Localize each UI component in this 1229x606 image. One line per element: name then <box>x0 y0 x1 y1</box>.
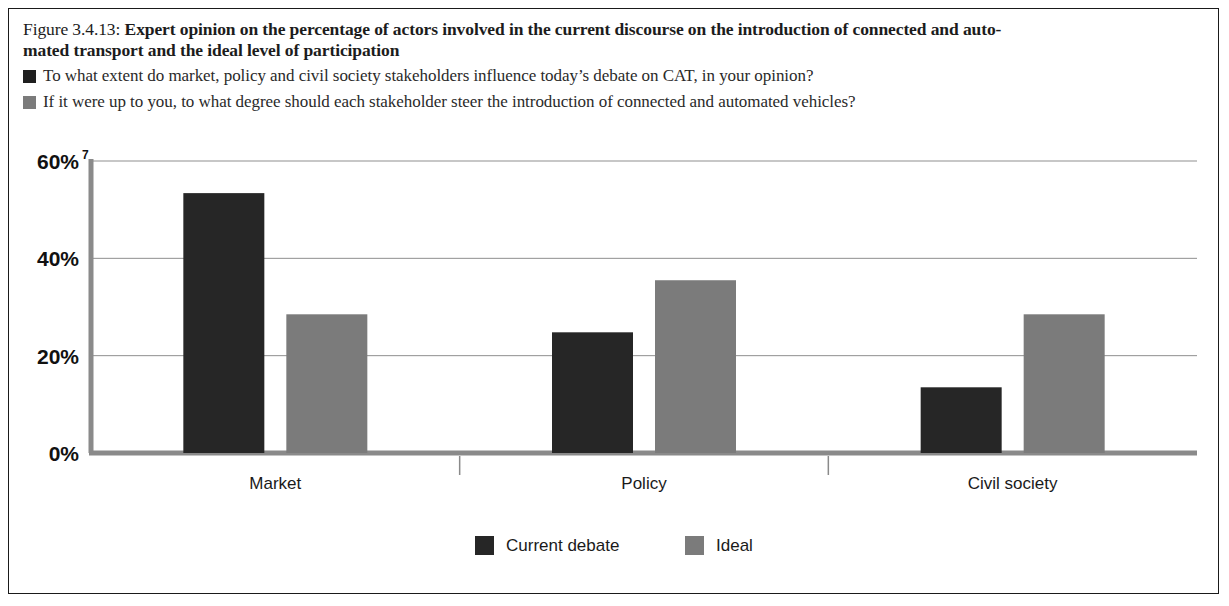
bar <box>183 193 264 453</box>
bar-chart: 0%20%40%60%7MarketPolicyCivil societyCur… <box>9 9 1220 595</box>
figure-frame: Figure 3.4.13: Expert opinion on the per… <box>8 8 1219 594</box>
legend-label: Current debate <box>506 536 619 555</box>
y-axis-tick-label: 0% <box>49 442 80 465</box>
x-axis-category-label: Market <box>249 474 301 493</box>
y-axis-tick-label: 60% <box>37 150 79 173</box>
x-axis-category-label: Civil society <box>968 474 1058 493</box>
legend-swatch-icon <box>475 536 494 555</box>
footnote-marker: 7 <box>82 148 89 162</box>
x-axis-category-label: Policy <box>621 474 667 493</box>
bar <box>655 280 736 453</box>
y-axis-tick-label: 20% <box>37 345 79 368</box>
y-axis-tick-label: 40% <box>37 247 79 270</box>
bar <box>921 387 1002 453</box>
bar <box>552 332 633 453</box>
legend-label: Ideal <box>716 536 753 555</box>
bar <box>1024 314 1105 453</box>
bar <box>286 314 367 453</box>
legend-swatch-icon <box>685 536 704 555</box>
